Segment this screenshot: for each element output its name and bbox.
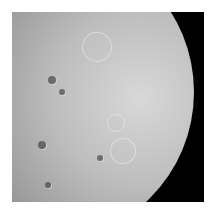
crater: [45, 182, 51, 188]
crater: [48, 76, 56, 84]
crater: [38, 141, 46, 149]
crater: [107, 114, 125, 132]
crater: [97, 155, 103, 161]
crater: [59, 89, 65, 95]
crater: [82, 32, 112, 62]
space-background: [12, 12, 204, 202]
crater: [110, 138, 136, 164]
